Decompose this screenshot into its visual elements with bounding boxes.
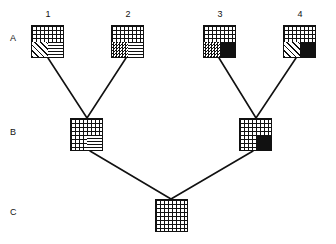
quadrant-bottom-left-diagonal-hatch: [284, 42, 300, 58]
genome-node-a3: [203, 25, 236, 58]
quadrant-top-right-grid: [300, 26, 316, 42]
edge-C1-B2: [171, 151, 253, 199]
taxon-label-3: 3: [210, 10, 230, 19]
edge-B2-A3: [219, 58, 256, 118]
quadrant-bottom-left-diagonal-hatch: [32, 42, 48, 58]
quadrant-bottom-right-horizontal-lines: [128, 42, 144, 58]
quadrant-bottom-right-horizontal-lines: [87, 135, 103, 151]
row-label-a: A: [10, 34, 16, 43]
quadrant-top-left-grid: [240, 119, 256, 135]
quadrant-bottom-right-solid-black: [220, 42, 236, 58]
quadrant-top-left-grid: [204, 26, 220, 42]
edge-B1-A2: [87, 58, 126, 118]
quadrant-top-right-grid: [256, 119, 272, 135]
quadrant-top-left-grid: [284, 26, 300, 42]
quadrant-bottom-right-solid-black: [256, 135, 272, 151]
edge-C1-B1: [90, 151, 171, 199]
quadrant-top-right-grid: [220, 26, 236, 42]
quadrant-top-left-grid: [71, 119, 87, 135]
genome-node-c1: [155, 199, 188, 232]
genome-node-b2: [239, 118, 272, 151]
quadrant-top-right-grid: [48, 26, 64, 42]
quadrant-top-right-grid: [128, 26, 144, 42]
quadrant-bottom-right-grid: [172, 216, 188, 232]
quadrant-top-left-grid: [32, 26, 48, 42]
diagram-canvas: A B C 1 2 3 4: [0, 0, 336, 244]
genome-node-b1: [70, 118, 103, 151]
quadrant-bottom-left-checkerboard: [112, 42, 128, 58]
quadrant-bottom-right-horizontal-lines: [48, 42, 64, 58]
taxon-label-1: 1: [38, 10, 58, 19]
quadrant-bottom-right-solid-black: [300, 42, 316, 58]
quadrant-top-left-grid: [156, 200, 172, 216]
row-label-c: C: [10, 208, 17, 217]
edge-B1-A1: [48, 58, 87, 118]
quadrant-top-right-grid: [172, 200, 188, 216]
taxon-label-2: 2: [118, 10, 138, 19]
quadrant-top-left-grid: [112, 26, 128, 42]
quadrant-bottom-left-grid: [240, 135, 256, 151]
edge-B2-A4: [256, 58, 296, 118]
quadrant-top-right-grid: [87, 119, 103, 135]
quadrant-bottom-left-grid: [71, 135, 87, 151]
row-label-b: B: [10, 128, 16, 137]
genome-node-a1: [31, 25, 64, 58]
quadrant-bottom-left-grid: [156, 216, 172, 232]
genome-node-a4: [283, 25, 316, 58]
quadrant-bottom-left-checkerboard: [204, 42, 220, 58]
taxon-label-4: 4: [290, 10, 310, 19]
genome-node-a2: [111, 25, 144, 58]
